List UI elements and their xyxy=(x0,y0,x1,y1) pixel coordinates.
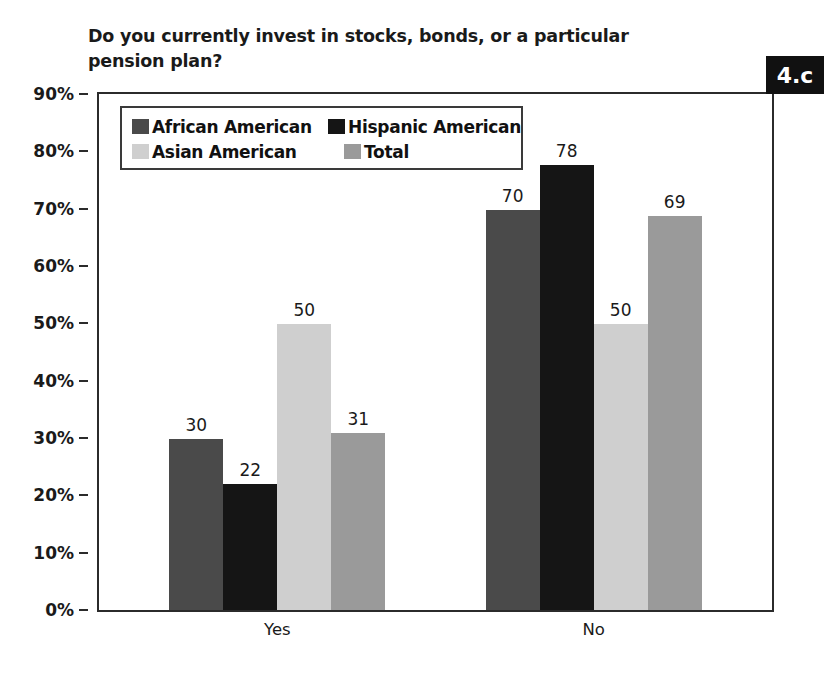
bar xyxy=(223,484,277,610)
bars-layer: 3022503170785069 xyxy=(99,94,772,610)
bar xyxy=(331,433,385,610)
legend-row: Asian American Total xyxy=(132,139,521,164)
bar xyxy=(594,324,648,610)
y-axis-tick-label: 80% xyxy=(33,141,74,161)
bar-group-yes: 30225031 xyxy=(169,94,385,610)
legend-item-african-american: African American xyxy=(132,117,328,137)
y-axis-tick-mark xyxy=(79,552,88,554)
y-axis-tick-mark xyxy=(79,380,88,382)
y-axis-tick-label: 70% xyxy=(33,199,74,219)
y-axis-tick-label: 30% xyxy=(33,428,74,448)
legend-item-hispanic-american: Hispanic American xyxy=(328,117,521,137)
legend-item-label: African American xyxy=(152,117,312,137)
x-axis-tick-label: No xyxy=(582,620,604,639)
legend-swatch-icon xyxy=(132,119,149,134)
bar xyxy=(169,439,223,610)
y-axis-tick-label: 50% xyxy=(33,313,74,333)
legend-swatch-icon xyxy=(328,119,345,134)
bar xyxy=(277,324,331,610)
legend-swatch-icon xyxy=(344,144,361,159)
bar-value-label: 50 xyxy=(594,300,648,320)
page-title: Do you currently invest in stocks, bonds… xyxy=(88,24,648,74)
bar-value-label: 50 xyxy=(277,300,331,320)
y-axis-tick-label: 20% xyxy=(33,485,74,505)
y-axis-tick-mark xyxy=(79,208,88,210)
x-axis-tick-label: Yes xyxy=(264,620,291,639)
y-axis-tick-label: 10% xyxy=(33,543,74,563)
legend-item-label: Hispanic American xyxy=(348,117,521,137)
bar-value-label: 30 xyxy=(169,415,223,435)
bar xyxy=(540,165,594,610)
y-axis-tick-label: 90% xyxy=(33,84,74,104)
legend-item-label: Total xyxy=(364,142,409,162)
legend-item-asian-american: Asian American xyxy=(132,142,344,162)
y-axis-tick-label: 0% xyxy=(45,600,74,620)
bar-value-label: 78 xyxy=(540,141,594,161)
y-axis-tick-mark xyxy=(79,494,88,496)
y-axis-tick-mark xyxy=(79,322,88,324)
y-axis-tick-mark xyxy=(79,265,88,267)
legend-row: African American Hispanic American xyxy=(132,114,521,139)
y-axis-tick-label: 60% xyxy=(33,256,74,276)
legend-item-label: Asian American xyxy=(152,142,297,162)
bar-value-label: 70 xyxy=(486,186,540,206)
bar-value-label: 31 xyxy=(331,409,385,429)
figure-number-badge: 4.c xyxy=(766,56,824,94)
x-axis: YesNo xyxy=(99,620,772,654)
y-axis-tick-mark xyxy=(79,93,88,95)
y-axis-tick-mark xyxy=(79,437,88,439)
y-axis-tick-mark xyxy=(79,150,88,152)
bar-value-label: 69 xyxy=(648,192,702,212)
bar xyxy=(648,216,702,610)
legend-swatch-icon xyxy=(132,144,149,159)
bar xyxy=(486,210,540,610)
y-axis-tick-label: 40% xyxy=(33,371,74,391)
legend: African American Hispanic American Asian… xyxy=(120,106,523,170)
y-axis-tick-mark xyxy=(79,609,88,611)
bar-value-label: 22 xyxy=(223,460,277,480)
legend-item-total: Total xyxy=(344,142,409,162)
y-axis: 0%10%20%30%40%50%60%70%80%90% xyxy=(0,92,88,612)
bar-group-no: 70785069 xyxy=(486,94,702,610)
